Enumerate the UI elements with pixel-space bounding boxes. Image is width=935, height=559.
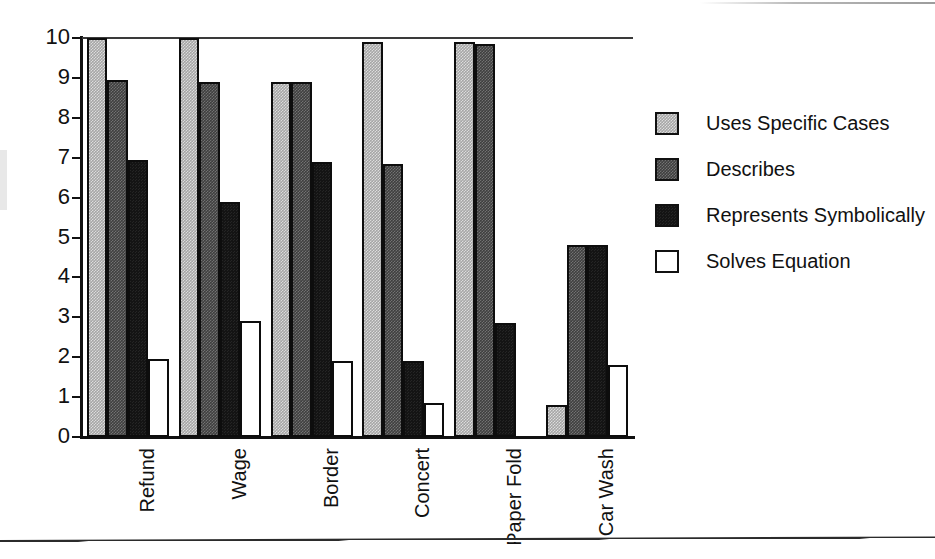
- bar[interactable]: [220, 202, 241, 437]
- y-axis-labels: 012345678910: [14, 0, 70, 559]
- y-axis-tick-label: 7: [24, 146, 70, 168]
- bar[interactable]: [403, 361, 424, 437]
- bar[interactable]: [383, 164, 404, 437]
- y-axis-tick: [72, 117, 81, 119]
- y-axis-tick: [72, 316, 81, 318]
- bar[interactable]: [148, 359, 169, 437]
- y-axis-tick: [72, 157, 81, 159]
- x-axis-category-label: Wage: [229, 448, 249, 500]
- bar-group: [546, 38, 628, 437]
- chart-legend: Uses Specific CasesDescribesRepresents S…: [655, 100, 930, 284]
- x-axis-category-label: Paper Fold: [504, 448, 524, 546]
- y-axis-tick-label: 8: [24, 106, 70, 128]
- bar[interactable]: [608, 365, 629, 437]
- y-axis-tick-label: 3: [24, 305, 70, 327]
- bar[interactable]: [475, 44, 496, 437]
- bar[interactable]: [240, 321, 261, 437]
- bar[interactable]: [179, 38, 200, 437]
- y-axis-tick: [72, 436, 81, 438]
- bar-group: [454, 38, 536, 437]
- bar[interactable]: [199, 82, 220, 437]
- bar[interactable]: [128, 160, 149, 437]
- y-axis-tick-label: 10: [24, 26, 70, 48]
- y-axis-tick: [72, 396, 81, 398]
- y-axis-tick-label: 5: [24, 226, 70, 248]
- scan-smudge-artifact: [0, 150, 7, 210]
- bar-group: [362, 38, 444, 437]
- x-axis-category-label: Border: [321, 448, 341, 508]
- bar[interactable]: [495, 323, 516, 437]
- legend-item[interactable]: Describes: [655, 146, 930, 192]
- y-axis-tick-label: 2: [24, 345, 70, 367]
- y-axis-tick-label: 0: [24, 425, 70, 447]
- bar[interactable]: [271, 82, 292, 437]
- y-axis-tick-label: 1: [24, 385, 70, 407]
- bar[interactable]: [107, 80, 128, 437]
- page-bottom-rule: [0, 536, 935, 544]
- legend-item[interactable]: Uses Specific Cases: [655, 100, 930, 146]
- white-swatch-icon: [655, 250, 679, 273]
- y-axis-tick-label: 6: [24, 186, 70, 208]
- y-axis-tick: [72, 356, 81, 358]
- bar[interactable]: [587, 245, 608, 437]
- legend-item-label: Describes: [706, 159, 795, 179]
- bar[interactable]: [546, 405, 567, 437]
- plot-area: [82, 38, 633, 437]
- y-axis-tick: [72, 197, 81, 199]
- bar[interactable]: [424, 403, 445, 437]
- legend-item[interactable]: Represents Symbolically: [655, 192, 930, 238]
- bar[interactable]: [454, 42, 475, 437]
- bar[interactable]: [362, 42, 383, 437]
- bar[interactable]: [567, 245, 588, 437]
- x-axis-category-label: Concert: [412, 448, 432, 518]
- bar-chart-figure: 012345678910 RefundWageBorderConcertPape…: [0, 0, 935, 559]
- y-axis-tick: [72, 77, 81, 79]
- light-gray-swatch-icon: [655, 112, 679, 135]
- y-axis-tick: [72, 276, 81, 278]
- x-axis-category-label: Car Wash: [596, 448, 616, 536]
- bar-group: [271, 38, 353, 437]
- scan-edge-artifact: [700, 2, 935, 4]
- dark-gray-swatch-icon: [655, 158, 679, 181]
- bar[interactable]: [87, 38, 108, 437]
- y-axis-tick-label: 4: [24, 265, 70, 287]
- bar[interactable]: [291, 82, 312, 437]
- y-axis-tick: [72, 237, 81, 239]
- legend-item-label: Uses Specific Cases: [706, 113, 889, 133]
- bar[interactable]: [312, 162, 333, 437]
- legend-item-label: Solves Equation: [706, 251, 851, 271]
- y-axis-tick: [72, 37, 81, 39]
- bar[interactable]: [332, 361, 353, 437]
- legend-item-label: Represents Symbolically: [706, 205, 925, 225]
- black-swatch-icon: [655, 204, 679, 227]
- bar-group: [87, 38, 169, 437]
- bar-group: [179, 38, 261, 437]
- y-axis-tick-label: 9: [24, 66, 70, 88]
- x-axis-category-label: Refund: [137, 448, 157, 513]
- legend-item[interactable]: Solves Equation: [655, 238, 930, 284]
